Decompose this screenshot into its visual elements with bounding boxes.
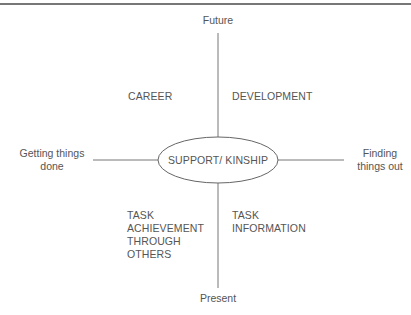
axis-label-left: Getting things done [14, 147, 90, 173]
quadrant-top-left: CAREER [128, 90, 172, 103]
quadrant-bottom-right-line1: TASK [232, 209, 306, 222]
quadrant-bottom-left-line1: TASK [127, 209, 204, 222]
axis-label-right-line2: things out [350, 160, 410, 173]
axis-label-future: Future [193, 14, 243, 27]
axis-label-present: Present [190, 292, 246, 305]
quadrant-bottom-left-line3: THROUGH [127, 235, 204, 248]
quadrant-bottom-left-line2: ACHIEVEMENT [127, 222, 204, 235]
quadrant-top-right: DEVELOPMENT [232, 90, 312, 103]
axis-label-left-line1: Getting things [14, 147, 90, 160]
axis-label-left-line2: done [14, 160, 90, 173]
axis-label-right-line1: Finding [350, 147, 410, 160]
center-label: SUPPORT/ KINSHIP [168, 154, 268, 167]
quadrant-bottom-left: TASK ACHIEVEMENT THROUGH OTHERS [127, 209, 204, 261]
axis-label-right: Finding things out [350, 147, 410, 173]
quadrant-bottom-right-line2: INFORMATION [232, 222, 306, 235]
quadrant-bottom-right: TASK INFORMATION [232, 209, 306, 235]
quadrant-bottom-left-line4: OTHERS [127, 248, 204, 261]
